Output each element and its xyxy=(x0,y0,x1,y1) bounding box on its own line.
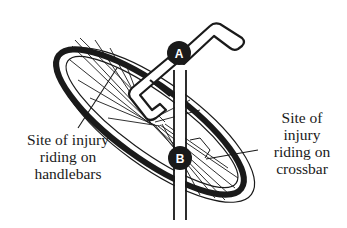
label-line: crossbar xyxy=(258,160,346,177)
label-line: riding on xyxy=(258,143,346,160)
label-line: Site of injury xyxy=(6,131,130,148)
bicycle-injury-diagram: A B Site of injury riding on handlebars … xyxy=(0,0,347,228)
marker-a: A xyxy=(167,41,191,65)
wheel xyxy=(36,22,276,228)
label-line: riding on xyxy=(6,148,130,165)
marker-b: B xyxy=(168,146,192,170)
svg-text:B: B xyxy=(176,152,185,166)
label-line: injury xyxy=(258,126,346,143)
tire-outer-edge xyxy=(36,22,276,228)
svg-text:A: A xyxy=(175,47,184,61)
label-crossbar-injury: Site of injury riding on crossbar xyxy=(258,109,346,177)
label-handlebars-injury: Site of injury riding on handlebars xyxy=(6,131,130,182)
leader-line-handlebars xyxy=(78,68,117,128)
label-line: handlebars xyxy=(6,165,130,182)
crossbar-fill xyxy=(175,70,185,220)
label-line: Site of xyxy=(258,109,346,126)
